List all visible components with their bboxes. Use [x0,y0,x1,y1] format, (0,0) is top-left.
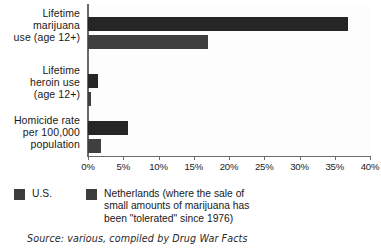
x-tick-label-6: 30% [290,161,309,172]
bar-us-0 [88,17,348,31]
category-label-heroin: Lifetime heroin use (age 12+) [0,64,80,101]
legend-swatch-netherlands-icon [86,189,97,200]
x-tick-label-1: 5% [117,161,130,172]
chart-legend: U.S. Netherlands (where the sale of smal… [0,186,381,228]
bar-us-1 [88,74,98,88]
bar-us-2 [88,121,128,135]
category-label-homicide: Homicide rate per 100,000 population [0,114,80,151]
bar-chart: Lifetime marijuana use (age 12+) Lifetim… [0,4,381,176]
legend-item-us: U.S. [14,188,52,200]
x-tick-8 [370,156,371,160]
x-tick-label-4: 20% [220,161,239,172]
x-tick-label-2: 10% [149,161,168,172]
x-tick-4 [229,156,230,160]
bar-netherlands-2 [88,139,101,153]
x-tick-0 [88,156,89,160]
x-tick-5 [264,156,265,160]
category-axis-labels: Lifetime marijuana use (age 12+) Lifetim… [0,4,84,156]
legend-label-us: U.S. [32,188,52,200]
chart-figure: Lifetime marijuana use (age 12+) Lifetim… [0,0,381,251]
x-tick-label-0: 0% [81,161,94,172]
x-tick-6 [300,156,301,160]
x-tick-label-8: 40% [361,161,380,172]
legend-swatch-us-icon [14,189,25,200]
category-label-marijuana: Lifetime marijuana use (age 12+) [0,7,80,44]
bar-netherlands-1 [88,92,91,106]
legend-item-netherlands: Netherlands (where the sale of small amo… [86,188,249,225]
x-tick-label-7: 35% [325,161,344,172]
x-tick-label-3: 15% [184,161,203,172]
x-tick-label-5: 25% [255,161,274,172]
source-note: Source: various, compiled by Drug War Fa… [27,233,248,244]
x-tick-7 [335,156,336,160]
bar-netherlands-0 [88,35,208,49]
x-tick-1 [123,156,124,160]
legend-label-netherlands: Netherlands (where the sale of small amo… [104,188,249,225]
x-tick-2 [159,156,160,160]
x-tick-3 [194,156,195,160]
